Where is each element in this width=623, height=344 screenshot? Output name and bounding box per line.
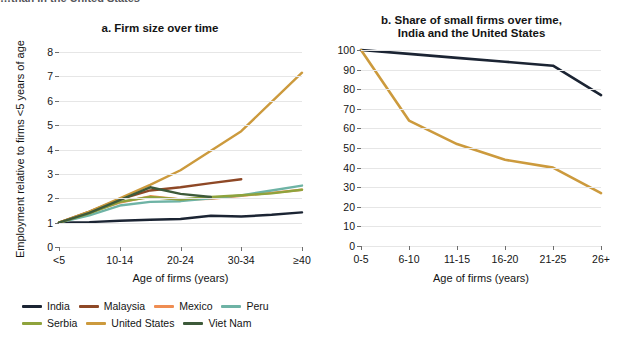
gridline (59, 52, 302, 53)
x-axis-tick-label: 6-10 (398, 253, 419, 265)
y-axis-tick-label: 8 (47, 46, 53, 58)
legend-item-peru[interactable]: Peru (221, 300, 268, 312)
x-axis-tick-label: <5 (53, 254, 65, 266)
gridline (59, 150, 302, 151)
y-axis-tick-label: 1 (47, 217, 53, 229)
x-axis-tick-label: 26+ (592, 253, 610, 265)
y-axis-tick (357, 128, 361, 129)
y-axis-tick-label: 3 (47, 168, 53, 180)
gridline (361, 89, 601, 90)
y-axis-tick-label: 5 (47, 119, 53, 131)
y-axis-tick-label: 7 (47, 70, 53, 82)
x-axis-tick (601, 246, 602, 250)
series-line-united-states (361, 50, 601, 193)
y-axis-tick (357, 207, 361, 208)
y-axis-tick-label: 100 (337, 44, 355, 56)
y-axis-tick-label: 2 (47, 192, 53, 204)
y-axis-tick-label: 0 (349, 240, 355, 252)
legend-item-label: Viet Nam (208, 317, 251, 329)
y-axis-tick-label: 6 (47, 95, 53, 107)
x-axis-tick (409, 246, 410, 250)
gridline (361, 187, 601, 188)
x-axis-tick (457, 246, 458, 250)
y-axis-tick (357, 89, 361, 90)
panel-share-of-small-firms: b. Share of small firms over time, India… (320, 0, 623, 344)
x-axis-tick-label: 11-15 (444, 253, 470, 265)
x-axis-tick (361, 246, 362, 250)
y-axis-tick (357, 109, 361, 110)
gridline (59, 223, 302, 224)
series-line-peru (59, 186, 302, 223)
gridline (361, 207, 601, 208)
y-axis-tick (55, 150, 59, 151)
x-axis-tick-label: 16-20 (492, 253, 519, 265)
y-axis-tick-label: 4 (47, 144, 53, 156)
x-axis-tick-label: ≥40 (293, 254, 310, 266)
gridline (361, 246, 601, 247)
y-axis-tick-label: 20 (343, 201, 355, 213)
x-axis-tick (59, 247, 60, 251)
gridline (361, 226, 601, 227)
gridline (59, 174, 302, 175)
legend-swatch-icon (221, 305, 241, 308)
legend-item-label: United States (111, 317, 174, 329)
y-axis-tick-label: 30 (343, 181, 355, 193)
legend-item-malaysia[interactable]: Malaysia (79, 300, 145, 312)
legend-item-united-states[interactable]: United States (86, 317, 174, 329)
y-axis-tick (55, 101, 59, 102)
y-axis-tick-label: 80 (343, 83, 355, 95)
x-axis-tick-label: 10-14 (106, 254, 133, 266)
y-axis-tick (357, 70, 361, 71)
panel-b-title: b. Share of small firms over time, India… (320, 14, 623, 40)
y-axis-tick-label: 40 (343, 162, 355, 174)
y-axis-tick (55, 223, 59, 224)
legend-swatch-icon (86, 322, 106, 325)
panel-b-title-line2: India and the United States (320, 27, 623, 40)
legend-swatch-icon (22, 322, 42, 325)
legend-item-label: Peru (246, 300, 268, 312)
gridline (59, 125, 302, 126)
legend-swatch-icon (22, 305, 42, 308)
y-axis-tick (357, 148, 361, 149)
y-axis-tick-label: 70 (343, 103, 355, 115)
legend-item-serbia[interactable]: Serbia (22, 317, 77, 329)
panel-firm-size-over-time: a. Firm size over time 012345678<510-142… (0, 0, 320, 344)
legend-swatch-icon (79, 305, 99, 308)
gridline (59, 101, 302, 102)
x-axis-tick (553, 246, 554, 250)
y-axis-tick-label: 0 (47, 241, 53, 253)
x-axis-tick (302, 247, 303, 251)
y-axis-tick-label: 50 (343, 142, 355, 154)
panel-a-y-axis-title: Employment relative to firms <5 years of… (14, 40, 26, 258)
legend-item-mexico[interactable]: Mexico (154, 300, 212, 312)
panel-b-plot-area: 01020304050607080901000-56-1011-1516-202… (361, 50, 601, 246)
legend-item-label: India (47, 300, 70, 312)
y-axis-tick (55, 125, 59, 126)
gridline (361, 148, 601, 149)
panel-b-x-axis-title: Age of firms (years) (361, 272, 601, 284)
panel-a-title: a. Firm size over time (0, 22, 320, 35)
x-axis-tick (181, 247, 182, 251)
y-axis-tick (357, 168, 361, 169)
legend-item-india[interactable]: India (22, 300, 70, 312)
gridline (361, 168, 601, 169)
legend-item-label: Serbia (47, 317, 77, 329)
y-axis-tick (55, 174, 59, 175)
panel-a-legend: IndiaMalaysiaMexicoPeruSerbiaUnited Stat… (22, 300, 322, 329)
x-axis-tick-label: 0-5 (353, 253, 368, 265)
y-axis-tick-label: 10 (343, 220, 355, 232)
gridline (361, 109, 601, 110)
legend-item-viet-nam[interactable]: Viet Nam (183, 317, 251, 329)
gridline (361, 70, 601, 71)
x-axis-tick (505, 246, 506, 250)
legend-swatch-icon (183, 322, 203, 325)
gridline (361, 128, 601, 129)
y-axis-tick (55, 52, 59, 53)
panel-a-plot-area: 012345678<510-1420-2430-34≥40 (59, 52, 302, 247)
y-axis-tick-label: 60 (343, 122, 355, 134)
x-axis-tick (120, 247, 121, 251)
y-axis-tick (55, 198, 59, 199)
gridline (59, 76, 302, 77)
y-axis-tick (357, 50, 361, 51)
x-axis-tick-label: 30-34 (228, 254, 255, 266)
